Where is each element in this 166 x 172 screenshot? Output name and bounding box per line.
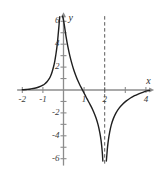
x-tick-label: 4 [137,95,155,104]
y-tick-label: -2 [42,108,60,117]
curve-branch-middle [62,16,102,161]
y-axis-arrowhead [61,12,66,17]
x-tick-label: -2 [13,95,31,104]
axes-group [17,12,154,165]
x-tick-label: 1 [75,95,93,104]
curve-branch-left [22,17,59,90]
y-axis-label: y [69,13,73,23]
function-graph-figure: -2-1124-6-4-2246 x y [0,0,166,172]
x-axis-label: x [146,76,150,86]
y-tick-label: 2 [42,62,60,71]
y-tick-label: 4 [42,39,60,48]
x-tick-label: 2 [96,95,114,104]
y-tick-label: -4 [42,131,60,140]
plot-canvas [0,0,166,172]
y-tick-label: 6 [42,16,60,25]
y-tick-label: -6 [42,154,60,163]
x-tick-label: -1 [34,95,52,104]
